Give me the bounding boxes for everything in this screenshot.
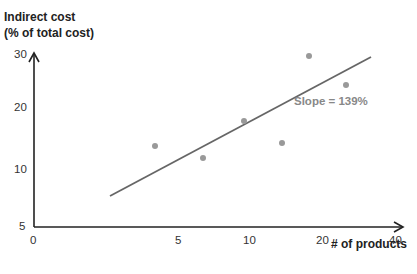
data-point — [306, 53, 312, 59]
chart-plot — [0, 0, 417, 274]
y-tick-30: 30 — [14, 48, 27, 60]
slope-annotation: Slope = 139% — [294, 95, 368, 107]
x-tick-10: 10 — [243, 234, 256, 246]
x-tick-5: 5 — [175, 234, 181, 246]
x-axis-title: # of products — [331, 237, 407, 251]
data-point — [241, 118, 247, 124]
x-tick-0: 0 — [30, 234, 36, 246]
y-tick-5: 5 — [19, 220, 25, 232]
y-tick-10: 10 — [14, 163, 27, 175]
data-point — [152, 143, 158, 149]
x-tick-20: 20 — [316, 234, 329, 246]
trendline — [110, 57, 371, 196]
y-tick-20: 20 — [14, 101, 27, 113]
data-point — [279, 140, 285, 146]
data-point — [200, 155, 206, 161]
data-point — [343, 82, 349, 88]
